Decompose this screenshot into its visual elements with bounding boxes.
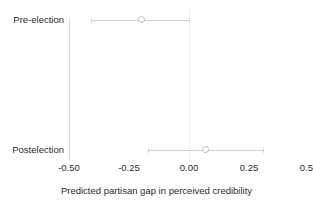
x-axis: -0.50 -0.25 0.00 0.25 0.50 bbox=[69, 163, 309, 177]
x-tick-label: 0.00 bbox=[180, 163, 199, 173]
x-tick-label: -0.50 bbox=[58, 163, 80, 173]
x-tick-label: 0.25 bbox=[240, 163, 259, 173]
x-tick-label: 0.50 bbox=[300, 163, 313, 173]
ci-cap-high bbox=[189, 18, 190, 23]
estimate-marker bbox=[138, 16, 145, 23]
plot-panel: Pre-election Postelection bbox=[69, 8, 309, 160]
coefficient-plot-figure: Pre-election Postelection -0.50 -0.25 0.… bbox=[0, 0, 313, 209]
zero-reference-line bbox=[189, 8, 190, 161]
estimate-marker bbox=[202, 146, 209, 153]
x-axis-title: Predicted partisan gap in perceived cred… bbox=[0, 186, 313, 196]
x-tick-label: -0.25 bbox=[118, 163, 140, 173]
ci-cap-low bbox=[148, 148, 149, 153]
y-tick-label-postelection: Postelection bbox=[12, 145, 64, 155]
ci-cap-low bbox=[91, 18, 92, 23]
y-axis-spine bbox=[69, 18, 70, 161]
y-tick-label-pre-election: Pre-election bbox=[13, 15, 64, 25]
ci-cap-high bbox=[263, 148, 264, 153]
